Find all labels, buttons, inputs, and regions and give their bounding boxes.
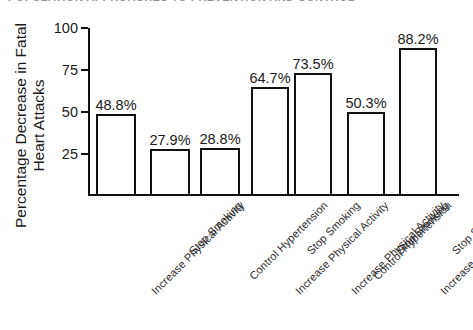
y-tick-mark <box>81 69 88 71</box>
y-tick-label: 25 <box>62 146 78 162</box>
bar-value-label: 88.2% <box>397 31 438 47</box>
bar: 88.2% <box>399 48 437 196</box>
y-tick-label: 75 <box>62 62 78 78</box>
x-axis-label: Stop Smoking <box>186 199 244 257</box>
plot-area: 255075100 48.8%27.9%28.8%64.7%73.5%50.3%… <box>88 28 459 196</box>
chart-page: POPULATION APPROACHES TO PREVENTION AND … <box>0 0 473 330</box>
bar-value-label: 28.8% <box>199 131 240 147</box>
bar: 28.8% <box>200 148 240 196</box>
y-tick-mark <box>81 153 88 155</box>
bar-value-label: 27.9% <box>149 132 190 148</box>
bar: 73.5% <box>294 73 332 196</box>
y-tick-mark <box>81 111 88 113</box>
running-head: POPULATION APPROACHES TO PREVENTION AND … <box>0 0 473 3</box>
y-axis-title: Percentage Decrease in Fatal Heart Attac… <box>12 21 47 231</box>
running-head-text: POPULATION APPROACHES TO PREVENTION AND … <box>0 0 473 3</box>
bar-value-label: 50.3% <box>345 95 386 111</box>
y-tick-mark <box>81 27 88 29</box>
bar-value-label: 73.5% <box>292 56 333 72</box>
bar: 50.3% <box>347 112 385 197</box>
y-tick-label: 50 <box>62 104 78 120</box>
bar-value-label: 64.7% <box>249 70 290 86</box>
bar-value-label: 48.8% <box>95 97 136 113</box>
bar: 64.7% <box>251 87 289 196</box>
x-axis-category-labels: Increase Physical ActivityStop SmokingCo… <box>88 199 473 330</box>
y-tick-label: 100 <box>54 20 78 36</box>
bar: 27.9% <box>150 149 190 196</box>
x-axis-label: Stop Smoking <box>393 199 451 257</box>
bar: 48.8% <box>96 114 136 196</box>
y-axis-line <box>88 28 90 196</box>
